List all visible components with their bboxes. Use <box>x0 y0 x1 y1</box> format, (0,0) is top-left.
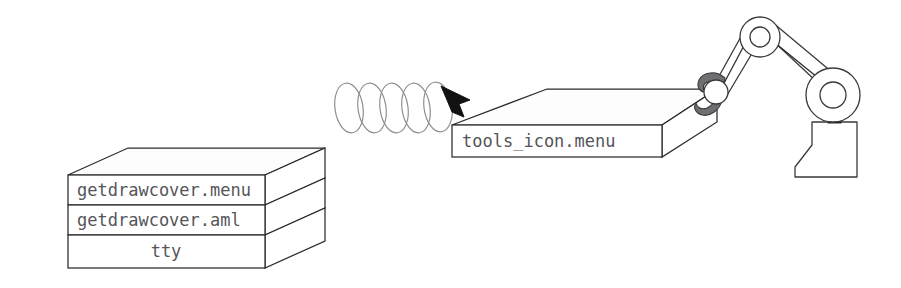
shoulder-joint-inner-icon <box>820 82 846 108</box>
stack-layer-2-label: getdrawcover.aml <box>77 210 241 230</box>
robot-arm <box>695 17 860 177</box>
layer-stack: getdrawcover.menu getdrawcover.aml tty <box>68 148 325 268</box>
stack-layer-3-label: tty <box>151 241 182 261</box>
tools-slab: tools_icon.menu <box>452 89 717 157</box>
arrow-down-right-icon <box>441 86 470 117</box>
elbow-joint-inner-icon <box>750 27 770 47</box>
slab-label: tools_icon.menu <box>462 131 616 151</box>
spring-coil-icon <box>332 80 456 134</box>
diagram-canvas: getdrawcover.menu getdrawcover.aml tty t… <box>0 0 901 288</box>
stack-layer-1-label: getdrawcover.menu <box>77 180 251 200</box>
robot-base-icon <box>795 122 857 177</box>
wrist-joint-icon <box>704 80 728 104</box>
